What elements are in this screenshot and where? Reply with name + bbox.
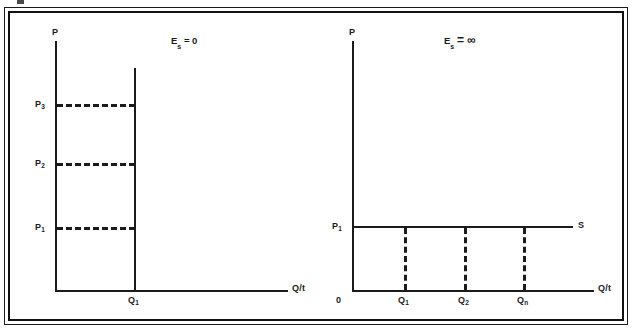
- right-p1-subscript: 1: [338, 225, 342, 232]
- left-price-guide-p1: [57, 227, 135, 230]
- right-quantity-tick-q2: Q2: [458, 295, 469, 305]
- right-origin-label: 0: [336, 295, 341, 305]
- right-qn-subscript: n: [524, 299, 528, 306]
- right-quantity-tick-qn: Qn: [517, 295, 528, 305]
- left-price-guide-p2: [57, 163, 135, 166]
- right-price-axis: [352, 41, 354, 291]
- left-quantity-axis: [55, 290, 288, 292]
- right-supply-curve: [353, 226, 573, 228]
- right-tick-mark-qn: [523, 285, 525, 291]
- left-price-tick-p3: P3: [35, 99, 45, 109]
- right-elasticity-value: = ∞: [457, 33, 476, 47]
- right-elasticity-subscript: s: [450, 43, 454, 50]
- right-elasticity-annotation: Es = ∞: [444, 35, 476, 48]
- left-quantity-tick-q1: Q1: [128, 295, 139, 305]
- right-tick-mark-q1: [404, 285, 406, 291]
- right-quantity-guide-q1: [404, 228, 407, 290]
- left-price-tick-p1: P1: [35, 222, 45, 232]
- left-p2-subscript: 2: [41, 162, 45, 169]
- panel-perfectly-inelastic-supply: P Q/t Es = 0 P3 P2 P1 Q1: [8, 11, 316, 321]
- right-tick-mark-q2: [464, 285, 466, 291]
- left-price-guide-p3: [57, 104, 135, 107]
- left-price-axis: [55, 41, 57, 291]
- cropped-caption-artifact: [17, 0, 24, 4]
- right-quantity-tick-q1: Q1: [398, 295, 409, 305]
- left-price-tick-p2: P2: [35, 158, 45, 168]
- left-p1-subscript: 1: [41, 226, 45, 233]
- right-y-axis-label: P: [349, 27, 355, 37]
- left-x-axis-label: Q/t: [292, 283, 305, 293]
- left-y-axis-label: P: [52, 27, 58, 37]
- panel-perfectly-elastic-supply: P Q/t 0 Es = ∞ S P1 Q1 Q2 Qn: [316, 11, 624, 321]
- left-p3-subscript: 3: [41, 103, 45, 110]
- right-x-axis-label: Q/t: [598, 283, 611, 293]
- right-quantity-axis: [352, 290, 594, 292]
- left-elasticity-annotation: Es = 0: [171, 35, 197, 48]
- left-elasticity-value: = 0: [184, 35, 197, 46]
- right-q1-subscript: 1: [405, 299, 409, 306]
- right-price-tick-p1: P1: [332, 221, 342, 231]
- right-supply-curve-label: S: [578, 220, 584, 230]
- right-quantity-guide-qn: [523, 228, 526, 290]
- left-supply-curve: [134, 68, 136, 292]
- right-quantity-guide-q2: [464, 228, 467, 290]
- right-q2-subscript: 2: [465, 299, 469, 306]
- left-q1-subscript: 1: [135, 299, 139, 306]
- left-elasticity-subscript: s: [177, 43, 181, 50]
